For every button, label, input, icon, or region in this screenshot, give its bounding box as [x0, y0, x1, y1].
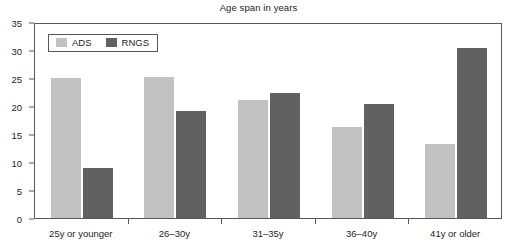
- legend-label: ADS: [72, 38, 92, 48]
- legend-swatch-icon: [56, 38, 67, 47]
- chart-legend: ADSRNGS: [48, 34, 158, 52]
- y-tick-label: 10: [11, 158, 22, 169]
- legend-swatch-icon: [106, 38, 117, 47]
- bar-ads-1: [144, 77, 174, 218]
- x-tick-mark: [315, 219, 316, 224]
- x-axis: 25y or younger26–30y31–35y36–40y41y or o…: [34, 219, 502, 252]
- bar-ads-2: [238, 100, 268, 218]
- bars-layer: [35, 24, 501, 218]
- bar-ads-3: [332, 127, 362, 218]
- y-tick-label: 35: [11, 18, 22, 29]
- bar-rngs-0: [83, 168, 113, 218]
- legend-entry-ads: ADS: [56, 38, 92, 48]
- bar-ads-0: [51, 78, 81, 218]
- bar-rngs-3: [364, 104, 394, 218]
- x-tick-label: 31–35y: [252, 228, 283, 239]
- y-axis: 05101520253035: [0, 0, 34, 252]
- y-tick-label: 30: [11, 46, 22, 57]
- x-tick-mark: [408, 219, 409, 224]
- chart-title: Age span in years: [0, 2, 517, 13]
- legend-entry-rngs: RNGS: [106, 38, 149, 48]
- bar-rngs-4: [457, 48, 487, 218]
- plot-area: ADSRNGS: [34, 23, 502, 219]
- x-tick-label: 36–40y: [346, 228, 377, 239]
- x-tick-mark: [221, 219, 222, 224]
- y-tick-label: 15: [11, 130, 22, 141]
- x-tick-label: 26–30y: [159, 228, 190, 239]
- bar-ads-4: [425, 144, 455, 218]
- bar-chart-figure: Age span in years 05101520253035 ADSRNGS…: [0, 0, 517, 252]
- y-tick-label: 20: [11, 102, 22, 113]
- bar-rngs-1: [176, 111, 206, 218]
- x-tick-label: 41y or older: [430, 228, 480, 239]
- y-tick-label: 5: [17, 186, 22, 197]
- y-tick-label: 25: [11, 74, 22, 85]
- x-tick-mark: [128, 219, 129, 224]
- x-tick-label: 25y or younger: [49, 228, 112, 239]
- legend-label: RNGS: [122, 38, 149, 48]
- bar-rngs-2: [270, 93, 300, 218]
- y-tick-label: 0: [17, 214, 22, 225]
